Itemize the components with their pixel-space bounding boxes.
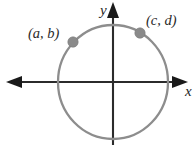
coordinate-plane-svg: (a, b) (c, d) y x <box>0 0 195 150</box>
point-cd-label: (c, d) <box>146 12 177 29</box>
point-cd-marker <box>135 28 145 38</box>
point-ab-marker <box>68 37 78 47</box>
x-axis-left-arrow-icon <box>6 76 22 88</box>
point-ab-label: (a, b) <box>28 25 60 42</box>
unit-circle-figure: (a, b) (c, d) y x <box>0 0 195 150</box>
x-axis-label: x <box>184 83 192 99</box>
y-axis-label: y <box>98 2 107 18</box>
y-axis-top-arrow-icon <box>107 2 119 18</box>
